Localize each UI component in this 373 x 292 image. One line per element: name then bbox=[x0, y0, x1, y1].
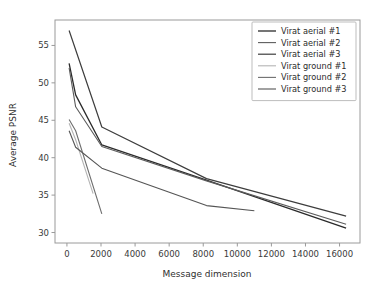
x-tick-label: 14000 bbox=[292, 249, 319, 259]
legend-label: Virat ground #1 bbox=[281, 61, 347, 71]
legend-label: Virat aerial #2 bbox=[281, 38, 341, 48]
y-tick-label: 35 bbox=[38, 190, 49, 200]
y-tick-label: 55 bbox=[38, 40, 49, 50]
x-tick-label: 10000 bbox=[224, 249, 251, 259]
legend-label: Virat aerial #3 bbox=[281, 49, 341, 59]
x-tick-label: 16000 bbox=[326, 249, 353, 259]
y-tick-label: 45 bbox=[38, 115, 49, 125]
x-tick-label: 0 bbox=[64, 249, 69, 259]
x-tick-label: 4000 bbox=[124, 249, 146, 259]
y-tick-label: 40 bbox=[38, 153, 49, 163]
y-tick-label: 30 bbox=[38, 228, 49, 238]
legend-label: Virat aerial #1 bbox=[281, 26, 341, 36]
legend-label: Virat ground #2 bbox=[281, 72, 347, 82]
line-chart: 0200040006000800010000120001400016000 30… bbox=[0, 0, 373, 292]
x-tick-label: 12000 bbox=[258, 249, 285, 259]
x-tick-label: 8000 bbox=[192, 249, 214, 259]
y-axis-label: Average PSNR bbox=[8, 103, 18, 167]
x-axis-label: Message dimension bbox=[163, 269, 252, 279]
legend-label: Virat ground #3 bbox=[281, 84, 347, 94]
x-tick-label: 2000 bbox=[90, 249, 112, 259]
chart-figure: 0200040006000800010000120001400016000 30… bbox=[0, 0, 373, 292]
y-tick-label: 50 bbox=[38, 78, 49, 88]
chart-legend: Virat aerial #1Virat aerial #2Virat aeri… bbox=[252, 22, 356, 101]
x-tick-label: 6000 bbox=[158, 249, 180, 259]
